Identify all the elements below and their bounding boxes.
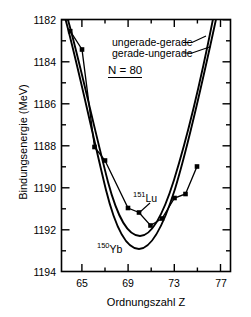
x-tick-label-65: 65	[67, 277, 97, 289]
isotope-lu-symbol: Lu	[146, 192, 158, 204]
isotope-lu-mass-number: 151	[133, 190, 146, 199]
y-axis-title: Bindungsenergie (MeV)	[17, 57, 29, 227]
data-point	[195, 164, 200, 169]
data-point	[103, 158, 108, 163]
isotope-yb-symbol: Yb	[110, 243, 123, 255]
x-axis-title: Ordnungszahl Z	[61, 296, 231, 308]
data-point	[148, 223, 153, 228]
x-tick-label-77: 77	[206, 277, 236, 289]
x-tick-label-69: 69	[113, 277, 143, 289]
y-tick-label-1182: 1182	[22, 14, 56, 26]
x-tick-label-73: 73	[159, 277, 189, 289]
y-axis-ticks	[62, 20, 70, 251]
isotope-yb-mass-number: 150	[97, 241, 110, 250]
data-point	[126, 206, 131, 211]
data-point	[80, 47, 85, 52]
y-tick-label-1194: 1194	[22, 266, 56, 278]
x-axis-ticks-top	[82, 20, 221, 28]
binding-energy-chart: 1182 1184 1186 1188 1190 1192 1194 65 69…	[0, 0, 251, 317]
isotope-label-lu: 151Lu	[133, 190, 157, 204]
data-point	[68, 29, 73, 34]
data-point	[160, 216, 165, 221]
isotope-label-yb: 150Yb	[97, 241, 122, 255]
n-value-annotation: N = 80	[108, 64, 142, 78]
leader-isotope-lu	[140, 203, 150, 212]
data-point	[172, 196, 177, 201]
data-point	[183, 192, 188, 197]
y-axis-ticks-right	[223, 20, 231, 251]
legend-label-gerade-ungerade: gerade-ungerade	[112, 47, 193, 59]
data-point	[92, 145, 97, 150]
x-axis-ticks	[82, 264, 221, 272]
